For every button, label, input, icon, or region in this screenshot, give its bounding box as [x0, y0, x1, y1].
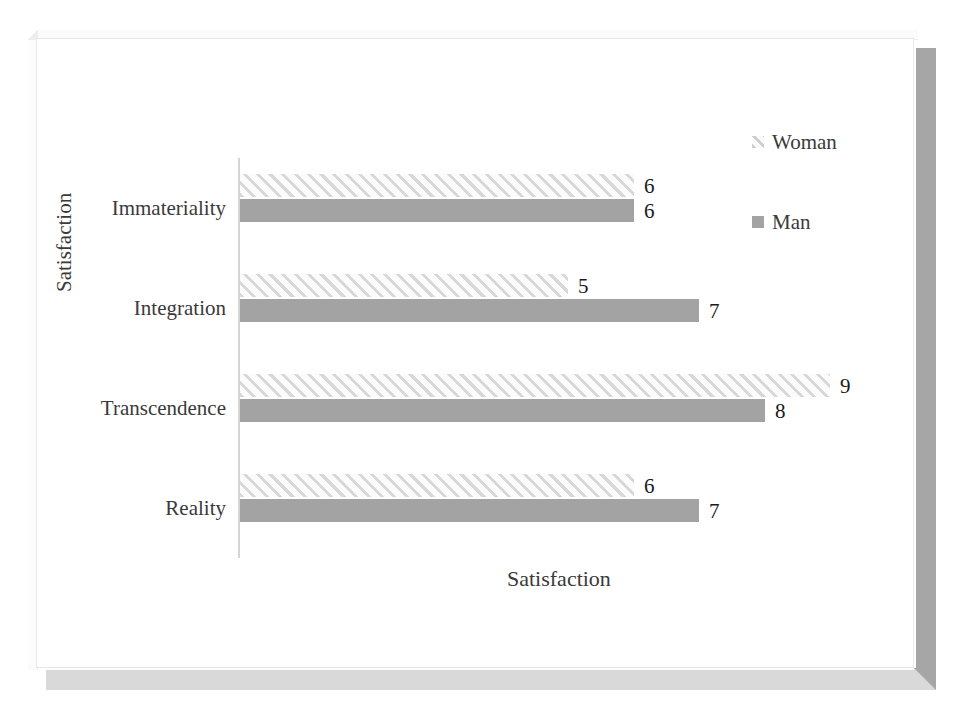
bar-man-immateriality[interactable]: 6	[240, 199, 634, 222]
y-axis-title: Satisfaction	[52, 193, 77, 292]
bar-woman-integration[interactable]: 5	[240, 274, 568, 297]
bar-man-reality[interactable]: 7	[240, 499, 699, 522]
category-label-transcendence: Transcendence	[101, 396, 226, 421]
bar-value-man-reality: 7	[709, 498, 720, 523]
legend-swatch-woman-icon	[752, 136, 764, 148]
category-group: Reality 6 7	[240, 458, 900, 558]
category-group: Integration 5 7	[240, 258, 900, 358]
bar-value-woman-immateriality: 6	[644, 173, 655, 198]
category-group: Transcendence 9 8	[240, 358, 900, 458]
bar-value-man-immateriality: 6	[644, 198, 655, 223]
bar-woman-transcendence[interactable]: 9	[240, 374, 830, 397]
bar-value-man-transcendence: 8	[775, 398, 786, 423]
category-label-immateriality: Immateriality	[112, 196, 226, 221]
legend-swatch-man-icon	[752, 216, 764, 228]
chart-legend: Woman Man	[752, 128, 912, 236]
legend-item-woman[interactable]: Woman	[752, 128, 912, 156]
category-label-reality: Reality	[165, 496, 226, 521]
bar-chart-figure: Satisfaction Satisfaction Immateriality …	[0, 0, 967, 728]
bar-value-woman-integration: 5	[578, 273, 589, 298]
x-axis-title: Satisfaction	[507, 566, 611, 592]
bar-value-woman-transcendence: 9	[840, 373, 851, 398]
legend-label-woman: Woman	[772, 130, 837, 155]
bar-man-integration[interactable]: 7	[240, 299, 699, 322]
legend-label-man: Man	[772, 210, 811, 235]
category-label-integration: Integration	[134, 296, 226, 321]
frame-bottom-bevel	[46, 670, 918, 690]
bar-value-woman-reality: 6	[644, 473, 655, 498]
frame-right-bevel	[916, 48, 936, 668]
bar-man-transcendence[interactable]: 8	[240, 399, 765, 422]
bar-woman-immateriality[interactable]: 6	[240, 174, 634, 197]
bar-value-man-integration: 7	[709, 298, 720, 323]
frame-corner-bottom-right	[914, 668, 936, 690]
bar-woman-reality[interactable]: 6	[240, 474, 634, 497]
legend-item-man[interactable]: Man	[752, 208, 912, 236]
